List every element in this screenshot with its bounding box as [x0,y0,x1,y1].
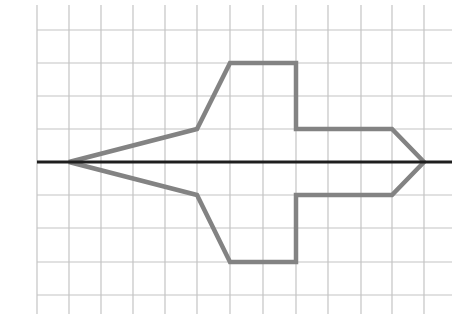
grid-lines [37,5,452,314]
grid-diagram [0,0,452,319]
